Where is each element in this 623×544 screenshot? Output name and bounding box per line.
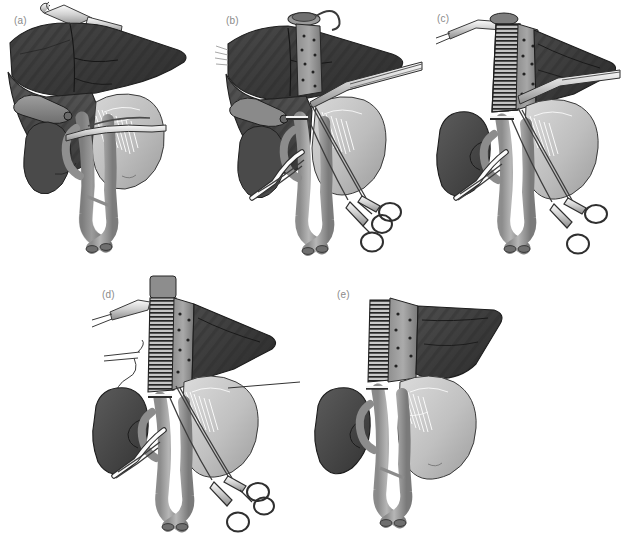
panel-b-illustration [212,0,434,262]
panel-a-illustration [0,0,210,262]
panel-d: (d) [88,272,314,544]
panel-c: (c) [434,0,623,262]
proximal-stump [150,276,176,298]
panel-b: (b) [212,0,434,262]
panel-a: (a) [0,0,210,262]
liver [534,30,616,104]
panel-e: (e) [326,272,566,544]
great-vessels [284,118,329,254]
margin-sutures [215,46,228,65]
duodenum-lobes [238,126,285,198]
hilar-plate [296,24,322,96]
panel-c-illustration [434,0,623,262]
hilar-plate [172,298,194,390]
hilar-plate [388,298,418,382]
stomach [92,94,164,189]
hemostat-upper [564,198,607,223]
liver [192,304,276,382]
great-vessels [142,395,189,530]
retractor-instrument [92,300,150,327]
great-vessels [360,387,407,526]
surgical-figure: (a) [0,0,623,544]
cuff [490,13,518,25]
liver [416,306,502,379]
stomach [524,99,598,199]
great-vessels [484,117,531,252]
panel-e-illustration [326,272,566,544]
panel-d-illustration [88,272,314,544]
hemostat-upper [224,476,274,515]
